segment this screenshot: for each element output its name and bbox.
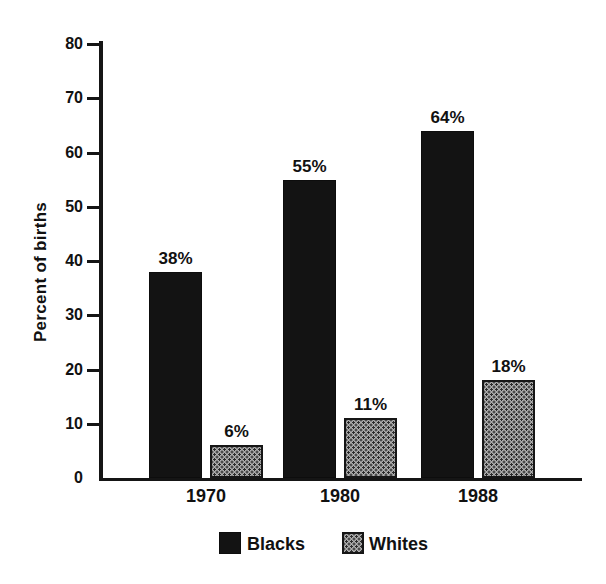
y-tick-60: [87, 152, 99, 155]
y-tick-80: [87, 43, 99, 46]
bar-value-label-blacks-1988: 64%: [409, 107, 486, 129]
y-tick-label-60: 60: [38, 144, 83, 162]
y-tick-label-40: 40: [38, 252, 83, 270]
y-tick-label-50: 50: [38, 198, 83, 216]
x-tick-label-1980: 1980: [295, 486, 385, 506]
y-tick-10: [87, 423, 99, 426]
bar-value-label-blacks-1980: 55%: [271, 156, 348, 178]
legend-swatch-blacks: [219, 532, 241, 554]
legend-swatch-whites: [342, 532, 364, 554]
chart-figure: Percent of births 0102030405060708038%6%…: [0, 0, 606, 584]
bar-value-label-blacks-1970: 38%: [137, 248, 214, 270]
y-tick-label-30: 30: [38, 306, 83, 324]
bar-blacks-1970: [149, 272, 202, 478]
y-tick-label-0: 0: [38, 469, 83, 487]
bar-value-label-whites-1970: 6%: [198, 421, 275, 443]
y-tick-30: [87, 314, 99, 317]
bar-whites-1980: [344, 418, 397, 478]
x-tick-label-1988: 1988: [433, 486, 523, 506]
y-axis-line: [99, 41, 103, 481]
legend-label-blacks: Blacks: [247, 533, 305, 555]
y-tick-label-70: 70: [38, 89, 83, 107]
x-axis-line: [99, 478, 582, 481]
bar-value-label-whites-1988: 18%: [470, 356, 547, 378]
y-tick-70: [87, 97, 99, 100]
legend: Blacks Whites: [0, 531, 606, 557]
bar-whites-1970: [210, 445, 263, 478]
legend-label-whites: Whites: [369, 533, 428, 555]
bar-blacks-1988: [421, 131, 474, 478]
bar-blacks-1980: [283, 180, 336, 478]
bar-value-label-whites-1980: 11%: [332, 394, 409, 416]
bar-whites-1988: [482, 380, 535, 478]
y-tick-label-20: 20: [38, 361, 83, 379]
y-tick-20: [87, 369, 99, 372]
y-tick-50: [87, 206, 99, 209]
x-tick-label-1970: 1970: [161, 486, 251, 506]
y-tick-label-10: 10: [38, 415, 83, 433]
y-tick-40: [87, 260, 99, 263]
y-tick-label-80: 80: [38, 35, 83, 53]
